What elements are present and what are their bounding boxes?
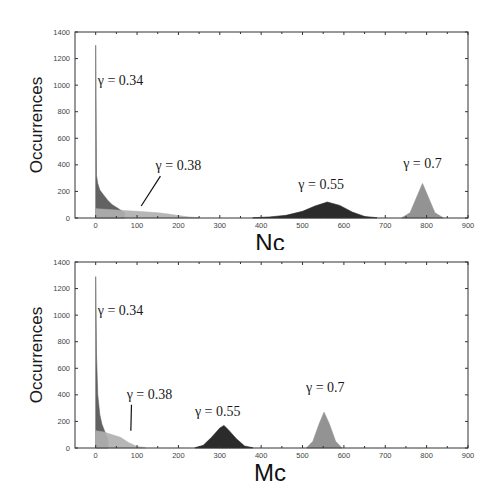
- series-area-1: [96, 431, 146, 448]
- x-tick-label: 900: [462, 451, 475, 460]
- x-tick-label: 600: [338, 451, 351, 460]
- plot-frame: [75, 32, 468, 218]
- series-area-3: [402, 183, 443, 218]
- plot-frame: [75, 262, 468, 448]
- gamma-annotation: γ = 0.7: [305, 380, 345, 395]
- series-area-2: [195, 425, 253, 448]
- bottom-chart-panel: 0200400600800100012001400010020030040050…: [0, 230, 497, 499]
- x-tick-label: 800: [420, 451, 433, 460]
- top-chart-panel: 0200400600800100012001400010020030040050…: [0, 0, 497, 250]
- x-tick-label: 500: [296, 221, 309, 230]
- x-tick-label: 100: [131, 221, 144, 230]
- x-tick-label: 100: [131, 451, 144, 460]
- gamma-annotation: γ = 0.55: [297, 177, 344, 192]
- gamma-annotation: γ = 0.7: [402, 156, 442, 171]
- y-axis-label: Occurrences: [27, 307, 46, 403]
- series-area-3: [307, 412, 342, 448]
- y-tick-label: 800: [57, 107, 70, 116]
- x-tick-label: 200: [172, 451, 185, 460]
- x-tick-label: 900: [462, 221, 475, 230]
- annotation-arrow: [141, 176, 160, 206]
- y-tick-label: 1400: [53, 28, 70, 37]
- y-tick-label: 1400: [53, 258, 70, 267]
- x-tick-label: 0: [94, 221, 98, 230]
- series-area-1: [96, 209, 199, 218]
- series-area-2: [253, 202, 377, 218]
- y-tick-label: 600: [57, 134, 70, 143]
- x-tick-label: 200: [172, 221, 185, 230]
- x-tick-label: 300: [214, 451, 227, 460]
- histogram-nc: 0200400600800100012001400010020030040050…: [0, 0, 497, 250]
- y-tick-label: 0: [66, 444, 70, 453]
- gamma-annotation: γ = 0.34: [97, 73, 144, 88]
- x-tick-label: 700: [379, 451, 392, 460]
- y-axis-label: Occurrences: [27, 77, 46, 173]
- y-tick-label: 1000: [53, 81, 70, 90]
- x-axis-label: Mc: [254, 459, 286, 486]
- x-tick-label: 600: [338, 221, 351, 230]
- x-tick-label: 300: [214, 221, 227, 230]
- x-tick-label: 0: [94, 451, 98, 460]
- y-tick-label: 800: [57, 337, 70, 346]
- y-tick-label: 600: [57, 364, 70, 373]
- x-tick-label: 800: [420, 221, 433, 230]
- x-tick-label: 500: [296, 451, 309, 460]
- y-tick-label: 1200: [53, 54, 70, 63]
- gamma-annotation: γ = 0.38: [155, 158, 202, 173]
- y-tick-label: 200: [57, 417, 70, 426]
- y-tick-label: 0: [66, 214, 70, 223]
- annotation-arrow: [131, 405, 132, 431]
- y-tick-label: 1000: [53, 311, 70, 320]
- y-tick-label: 400: [57, 390, 70, 399]
- y-tick-label: 1200: [53, 284, 70, 293]
- y-tick-label: 200: [57, 187, 70, 196]
- y-tick-label: 400: [57, 160, 70, 169]
- series-area-0: [96, 45, 125, 218]
- gamma-annotation: γ = 0.34: [97, 303, 144, 318]
- histogram-mc: 0200400600800100012001400010020030040050…: [0, 230, 497, 499]
- gamma-annotation: γ = 0.55: [194, 404, 241, 419]
- gamma-annotation: γ = 0.38: [126, 387, 173, 402]
- x-tick-label: 700: [379, 221, 392, 230]
